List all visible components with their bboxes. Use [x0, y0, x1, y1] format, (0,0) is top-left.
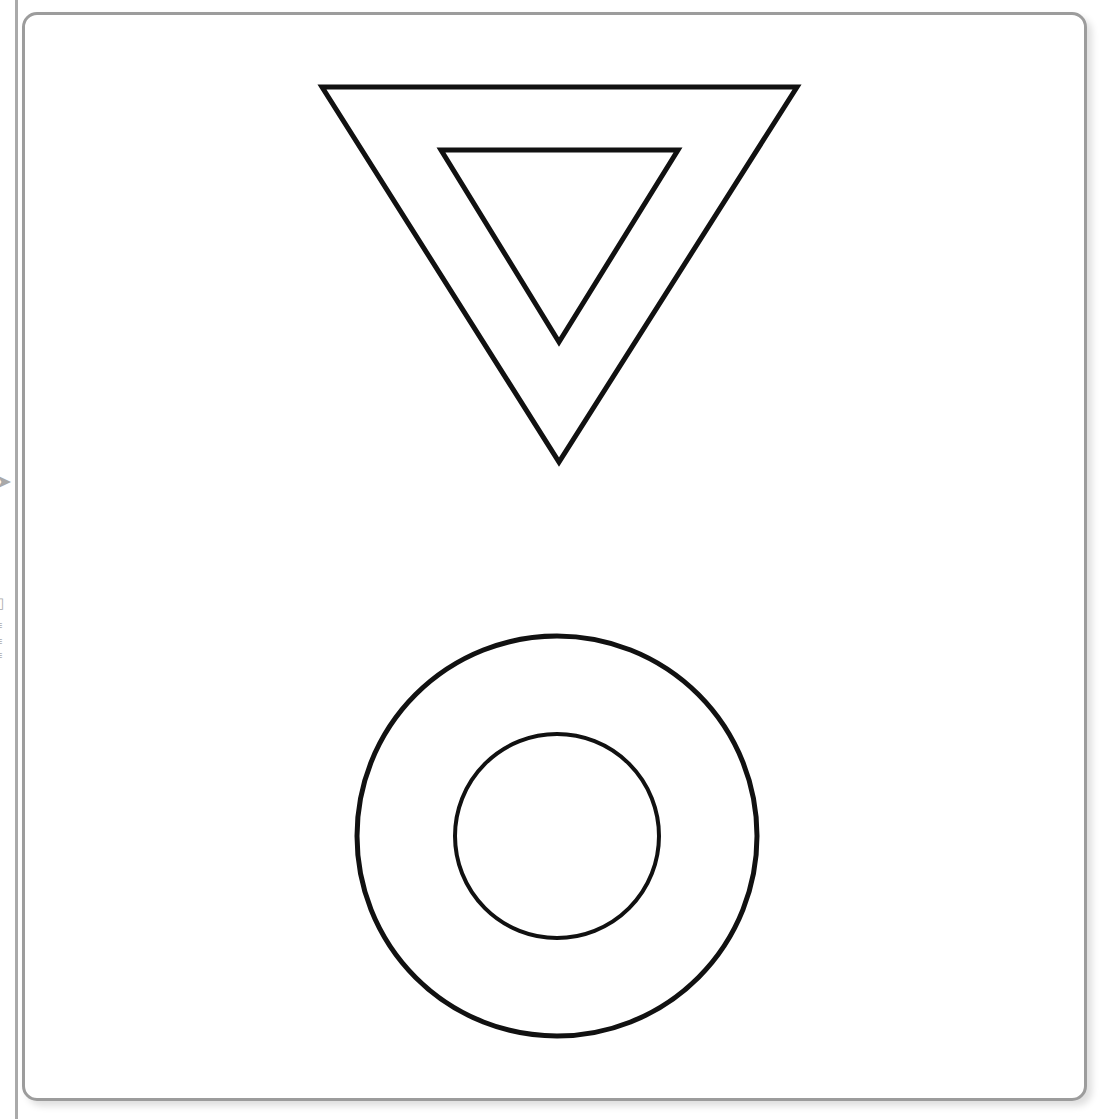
left-edge-panel-sliver: ➤ ▯ ≡ ≡ ≡ [0, 0, 20, 1119]
panel-divider [15, 0, 18, 1119]
drawing-card [22, 12, 1087, 1101]
card-icon[interactable]: ▯ [0, 595, 4, 610]
arrow-icon[interactable]: ➤ [0, 472, 12, 491]
lines-icon-3[interactable]: ≡ [0, 650, 2, 661]
screen-root: ➤ ▯ ≡ ≡ ≡ [0, 0, 1115, 1119]
lines-icon-1[interactable]: ≡ [0, 620, 2, 631]
lines-icon-2[interactable]: ≡ [0, 636, 2, 647]
